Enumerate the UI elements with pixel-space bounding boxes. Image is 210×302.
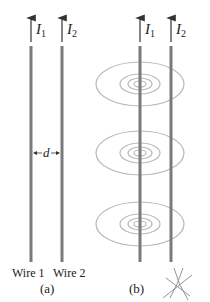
panel-b-label: (b) bbox=[129, 282, 144, 295]
wire2b-current-label: I2 bbox=[176, 22, 186, 39]
wire1-current-label: I1 bbox=[36, 22, 46, 39]
wire2-current-label: I2 bbox=[67, 22, 77, 39]
distance-label: d bbox=[42, 146, 51, 159]
panel-b bbox=[96, 18, 192, 300]
wire-2-label: Wire 2 bbox=[53, 267, 86, 279]
magnetic-field-parallel-wires-diagram bbox=[0, 0, 210, 302]
wire1b-current-label: I1 bbox=[145, 22, 155, 39]
panel-a bbox=[31, 18, 62, 262]
panel-a-label: (a) bbox=[40, 282, 54, 295]
wire-1-label: Wire 1 bbox=[12, 267, 45, 279]
cross-mark-icon bbox=[163, 268, 192, 300]
